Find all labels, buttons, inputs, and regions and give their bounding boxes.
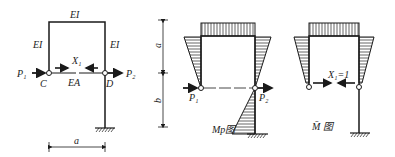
m-bar-diagram: X₁=1 M̄ 图 <box>294 23 374 137</box>
moment-top <box>201 23 255 36</box>
m-bar-caption: M̄ 图 <box>311 121 335 132</box>
left-column-label: EI <box>32 39 43 50</box>
mp-caption: Mp图 <box>211 124 237 135</box>
load-label-p2: P₂ <box>125 68 136 79</box>
mp-diagram: a b P₁ P₂ Mp图 <box>152 20 272 138</box>
hinge-right <box>357 85 362 90</box>
height-bottom-label: b <box>152 98 163 103</box>
moment-left <box>294 37 309 83</box>
frame <box>49 22 105 128</box>
hinge-c <box>47 71 52 76</box>
beam-label: EI <box>69 9 80 20</box>
load-label-p2: P₂ <box>258 92 269 103</box>
node-label-d: D <box>105 78 114 89</box>
unit-force-label: X₁=1 <box>327 69 349 80</box>
height-dimension: a b <box>152 20 168 127</box>
hinge-left <box>199 86 204 91</box>
moment-right <box>359 37 374 83</box>
node-label-c: C <box>40 78 47 89</box>
structural-diagrams: EI EI EI X₁ EA P₁ P₂ C D a a b <box>0 0 395 157</box>
span-label: a <box>74 135 79 146</box>
height-top-label: a <box>152 43 163 48</box>
structure-diagram: EI EI EI X₁ EA P₁ P₂ C D a <box>16 9 136 152</box>
hinge-right <box>253 86 258 91</box>
redundant-label: X₁ <box>71 55 82 66</box>
fixed-support <box>95 128 115 132</box>
fixed-support <box>247 134 268 138</box>
hinge-d <box>103 71 108 76</box>
frame <box>309 36 359 133</box>
moment-top <box>309 23 359 36</box>
load-label-p1: P₁ <box>16 68 27 79</box>
moment-right-lower <box>232 88 255 134</box>
tie-label: EA <box>67 77 81 88</box>
load-label-p1: P₁ <box>188 92 199 103</box>
moment-right-upper <box>255 37 271 88</box>
moment-left <box>184 37 201 88</box>
fixed-support <box>350 133 370 137</box>
hinge-left <box>307 85 312 90</box>
right-column-label: EI <box>109 39 120 50</box>
